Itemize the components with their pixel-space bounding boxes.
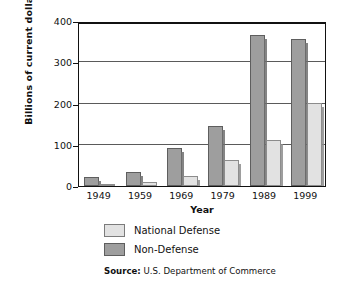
x-tick-label-1979: 1979	[203, 190, 243, 201]
legend-label: Non-Defense	[134, 244, 199, 255]
bar-1969-non-defense	[167, 148, 182, 186]
bar-1949-non-defense	[84, 177, 99, 186]
legend-swatch-light-gray-square	[104, 224, 125, 237]
x-tick-label-1969: 1969	[161, 190, 201, 201]
legend-swatch-dark-gray-square	[104, 243, 125, 256]
y-tick-label: 100	[44, 140, 72, 151]
x-axis-label: Year	[78, 204, 326, 215]
bar-1959-national-defense	[142, 182, 157, 186]
bar-shadow	[197, 180, 200, 186]
bar-1989-national-defense	[266, 140, 281, 186]
bar-1969-national-defense	[183, 176, 198, 186]
bar-1959-non-defense	[126, 172, 141, 186]
source-note: Source: U.S. Department of Commerce	[104, 266, 276, 276]
bar-shadow	[280, 144, 283, 186]
bar-1989-non-defense	[250, 35, 265, 186]
bar-1999-non-defense	[291, 39, 306, 186]
gridline	[79, 144, 325, 145]
y-tick-label: 0	[44, 181, 72, 192]
y-tick-label: 200	[44, 99, 72, 110]
y-tick-mark	[73, 187, 78, 188]
bar-1999-national-defense	[307, 103, 322, 186]
bar-1949-national-defense	[100, 184, 115, 186]
bar-chart-figure: Billions of current dollars 010020030040…	[0, 0, 341, 291]
x-axis-ticks: 194919591969197919891999	[78, 190, 326, 204]
source-prefix: Source:	[104, 266, 141, 276]
x-tick-label-1959: 1959	[120, 190, 160, 201]
y-tick-label: 300	[44, 57, 72, 68]
bar-shadow	[321, 107, 324, 186]
y-tick-label: 400	[44, 16, 72, 27]
source-text: U.S. Department of Commerce	[144, 266, 276, 276]
gridline	[79, 61, 325, 62]
plot-area	[78, 22, 326, 187]
legend-item-national-defense: National Defense	[104, 222, 220, 239]
legend-item-non-defense: Non-Defense	[104, 241, 220, 258]
bar-1979-non-defense	[208, 126, 223, 186]
x-tick-label-1949: 1949	[79, 190, 119, 201]
x-tick-label-1989: 1989	[244, 190, 284, 201]
bar-1979-national-defense	[224, 160, 239, 186]
chart-legend: National DefenseNon-Defense	[104, 222, 220, 260]
bar-shadow	[238, 164, 241, 186]
x-tick-label-1999: 1999	[285, 190, 325, 201]
gridline	[79, 103, 325, 104]
legend-label: National Defense	[134, 225, 220, 236]
